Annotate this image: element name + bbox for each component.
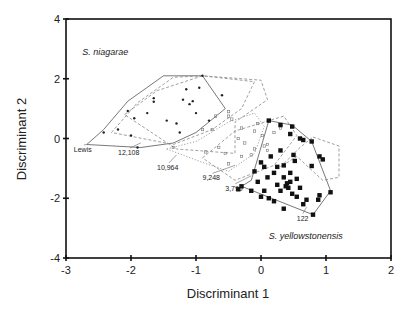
point-niagarae <box>153 97 155 99</box>
point-yellowstonensis <box>288 171 292 175</box>
annotation-label: 122 <box>297 215 309 222</box>
annotation-label: 10,964 <box>157 164 179 171</box>
annotation-label: 12,108 <box>118 149 140 156</box>
point-yellowstonensis <box>295 177 299 181</box>
point-intermediate <box>244 142 246 144</box>
x-tick-label: -1 <box>191 264 201 276</box>
y-tick-label: -4 <box>50 252 60 264</box>
point-yellowstonensis <box>278 148 282 152</box>
point-niagarae <box>175 122 177 124</box>
point-yellowstonensis <box>301 202 305 206</box>
point-yellowstonensis <box>272 171 276 175</box>
point-intermediate <box>266 143 268 145</box>
point-niagarae <box>130 134 132 136</box>
point-yellowstonensis <box>249 189 253 193</box>
point-niagarae <box>201 75 203 77</box>
point-yellowstonensis <box>278 123 282 127</box>
point-yellowstonensis <box>252 169 256 173</box>
point-yellowstonensis <box>282 207 286 211</box>
point-yellowstonensis <box>269 154 273 158</box>
annotation-pointer <box>169 155 177 163</box>
point-yellowstonensis <box>310 139 314 143</box>
point-intermediate <box>227 163 229 165</box>
point-niagarae <box>146 112 148 114</box>
point-yellowstonensis <box>311 212 315 216</box>
x-tick-label: 1 <box>323 264 329 276</box>
point-yellowstonensis <box>265 175 269 179</box>
y-tick-label: 4 <box>54 13 60 25</box>
annotations: S. niagaraeS. yellowstonensisLewis12,108… <box>74 47 344 241</box>
x-tick-label: -2 <box>126 264 136 276</box>
scatter-chart: S. niagaraeS. yellowstonensisLewis12,108… <box>0 0 412 317</box>
point-yellowstonensis <box>259 195 263 199</box>
point-yellowstonensis <box>282 175 286 179</box>
point-niagarae <box>195 112 197 114</box>
point-yellowstonensis <box>293 159 297 163</box>
point-intermediate <box>263 145 265 147</box>
point-yellowstonensis <box>259 160 263 164</box>
hull-9-248 <box>167 113 264 171</box>
point-yellowstonensis <box>262 189 266 193</box>
point-yellowstonensis <box>275 183 279 187</box>
point-yellowstonensis <box>282 163 286 167</box>
point-yellowstonensis <box>301 138 305 142</box>
point-yellowstonensis <box>291 153 295 157</box>
point-niagarae <box>153 101 155 103</box>
point-intermediate <box>227 110 229 112</box>
point-yellowstonensis <box>256 180 260 184</box>
x-tick-label: 2 <box>388 264 394 276</box>
point-intermediate <box>266 149 268 151</box>
point-niagarae <box>192 100 194 102</box>
y-axis-title: Discriminant 2 <box>14 98 29 180</box>
y-tick-label: 0 <box>54 133 60 145</box>
point-yellowstonensis <box>317 193 321 197</box>
point-yellowstonensis <box>278 189 282 193</box>
x-axis-title: Discriminant 1 <box>187 286 269 301</box>
point-yellowstonensis <box>286 186 290 190</box>
point-yellowstonensis <box>304 198 308 202</box>
x-tick-label: 0 <box>258 264 264 276</box>
point-niagarae <box>198 87 200 89</box>
convex-hulls <box>87 76 339 215</box>
annotation-label: 9,248 <box>203 174 221 181</box>
point-niagarae <box>182 98 184 100</box>
point-yellowstonensis <box>267 118 271 122</box>
point-niagarae <box>208 119 210 121</box>
point-yellowstonensis <box>310 164 314 168</box>
point-intermediate <box>201 128 203 130</box>
point-niagarae <box>133 117 135 119</box>
point-niagarae <box>103 131 105 133</box>
point-intermediate <box>240 155 242 157</box>
point-yellowstonensis <box>290 124 294 128</box>
point-niagarae <box>166 119 168 121</box>
annotation-label: S. niagarae <box>82 47 128 57</box>
data-points <box>103 75 333 217</box>
point-yellowstonensis <box>262 165 266 169</box>
point-yellowstonensis <box>298 186 302 190</box>
point-niagarae <box>221 94 223 96</box>
point-yellowstonensis <box>275 165 279 169</box>
point-intermediate <box>227 115 229 117</box>
point-yellowstonensis <box>316 198 320 202</box>
annotation-label: 3,790 <box>225 185 243 192</box>
point-niagarae <box>127 110 129 112</box>
point-intermediate <box>253 130 255 132</box>
x-tick-label: -3 <box>61 264 71 276</box>
point-intermediate <box>273 131 275 133</box>
annotation-label: Lewis <box>74 146 92 153</box>
point-yellowstonensis <box>288 180 292 184</box>
point-yellowstonensis <box>328 190 332 194</box>
point-niagarae <box>117 128 119 130</box>
y-tick-label: 2 <box>54 73 60 85</box>
point-intermediate <box>240 127 242 129</box>
point-niagarae <box>188 103 190 105</box>
point-intermediate <box>218 146 220 148</box>
point-yellowstonensis <box>267 196 271 200</box>
point-niagarae <box>179 131 181 133</box>
hull-12-108 <box>112 76 255 145</box>
point-yellowstonensis <box>272 199 276 203</box>
point-yellowstonensis <box>290 192 294 196</box>
point-yellowstonensis <box>321 157 325 161</box>
point-intermediate <box>231 118 233 120</box>
y-tick-label: -2 <box>50 192 60 204</box>
